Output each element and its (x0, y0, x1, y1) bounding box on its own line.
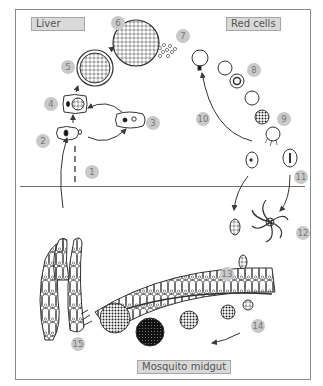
stage-number-10: 10 (196, 112, 210, 126)
stage-number-11: 11 (294, 170, 308, 184)
stage-number-4: 4 (44, 97, 58, 111)
red-cells-label: Red cells (226, 17, 281, 31)
liver-label: Liver (31, 17, 85, 31)
liver-stage-group (57, 20, 177, 208)
stage-number-8: 8 (247, 63, 261, 77)
blood-stage-group (192, 50, 297, 211)
stage-number-15: 15 (71, 337, 85, 351)
stage-number-1: 1 (85, 165, 99, 179)
stage-number-2: 2 (36, 134, 50, 148)
mosquito-midgut-label: Mosquito midgut (137, 360, 231, 374)
stage-number-3: 3 (146, 116, 160, 130)
stage-number-14: 14 (251, 319, 265, 333)
malaria-lifecycle-illustration (0, 0, 323, 386)
stage-number-5: 5 (61, 60, 75, 74)
stage-number-9: 9 (277, 112, 291, 126)
stage-number-6: 6 (111, 16, 125, 30)
stage-number-13: 13 (220, 267, 234, 281)
stage-number-7: 7 (176, 29, 190, 43)
stage-number-12: 12 (296, 226, 310, 240)
